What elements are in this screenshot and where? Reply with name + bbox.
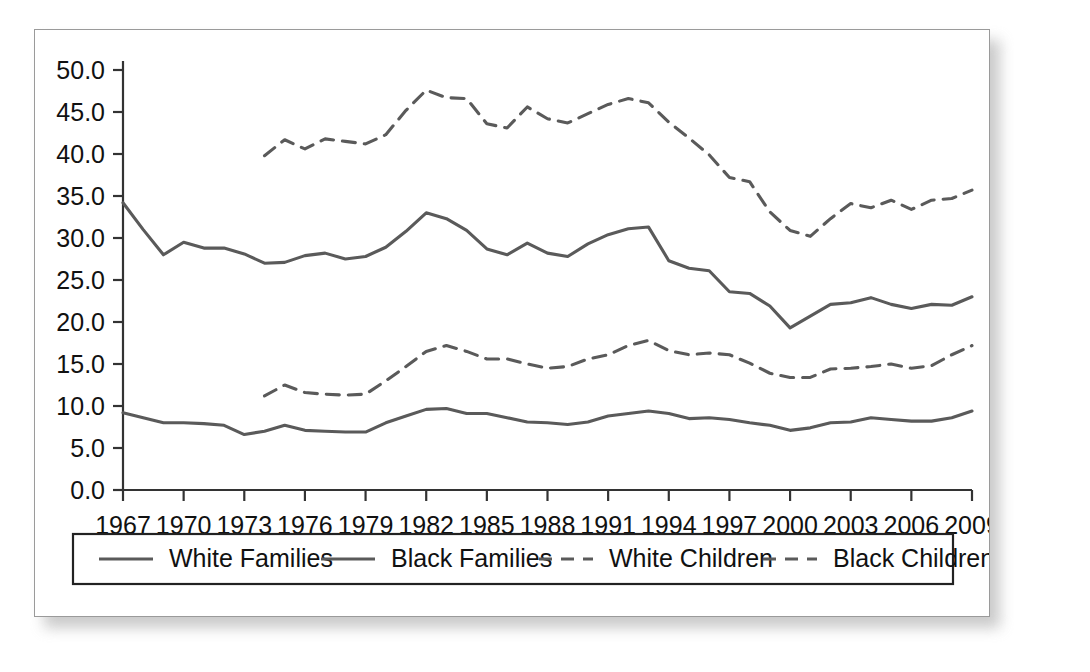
y-tick-label: 50.0 [56,56,105,84]
y-tick-label: 35.0 [56,182,105,210]
axis-lines [123,61,972,490]
y-tick-label: 30.0 [56,224,105,252]
y-tick-label: 20.0 [56,308,105,336]
screenshot-page: 0.05.010.015.020.025.030.035.040.045.050… [0,0,1090,672]
y-axis-tick-labels: 0.05.010.015.020.025.030.035.040.045.050… [56,56,105,504]
legend-label-white-families: White Families [169,544,333,572]
series-line-black-children [265,90,973,236]
series-line-white-children [265,340,973,395]
series-lines [123,90,972,434]
chart-legend: White FamiliesBlack FamiliesWhite Childr… [73,534,989,584]
series-line-black-families [123,203,972,328]
axis-tick-marks [113,70,972,501]
y-tick-label: 25.0 [56,266,105,294]
y-tick-label: 10.0 [56,392,105,420]
chart-card: 0.05.010.015.020.025.030.035.040.045.050… [34,29,990,617]
y-tick-label: 0.0 [70,476,105,504]
line-chart: 0.05.010.015.020.025.030.035.040.045.050… [35,30,989,616]
legend-label-black-families: Black Families [391,544,552,572]
legend-label-white-children: White Children [609,544,773,572]
series-line-white-families [123,409,972,435]
y-tick-label: 40.0 [56,140,105,168]
y-tick-label: 45.0 [56,98,105,126]
y-tick-label: 15.0 [56,350,105,378]
chart-figure: 0.05.010.015.020.025.030.035.040.045.050… [35,30,989,616]
y-tick-label: 5.0 [70,434,105,462]
legend-label-black-children: Black Children [833,544,989,572]
